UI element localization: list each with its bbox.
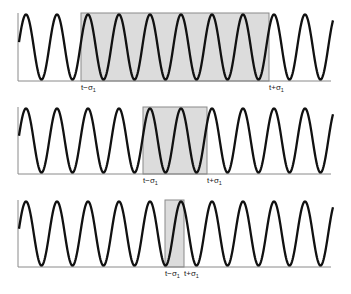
label-t-plus-sigma: t+σ1 — [207, 176, 222, 186]
time-window-narrow — [165, 200, 184, 267]
panel-narrow: t−σ1t+σ1 — [18, 200, 333, 279]
label-t-plus-sigma: t+σ1 — [184, 269, 199, 279]
panel-medium: t−σ1t+σ1 — [18, 107, 333, 186]
label-t-minus-sigma: t−σ1 — [165, 269, 180, 279]
label-t-plus-sigma: t+σ1 — [269, 83, 284, 93]
window-diagram: t−σ1t+σ1t−σ1t+σ1t−σ1t+σ1 — [0, 0, 351, 294]
panel-wide: t−σ1t+σ1 — [18, 13, 333, 93]
label-t-minus-sigma: t−σ1 — [81, 83, 96, 93]
label-t-minus-sigma: t−σ1 — [143, 176, 158, 186]
time-window-wide — [81, 13, 269, 81]
